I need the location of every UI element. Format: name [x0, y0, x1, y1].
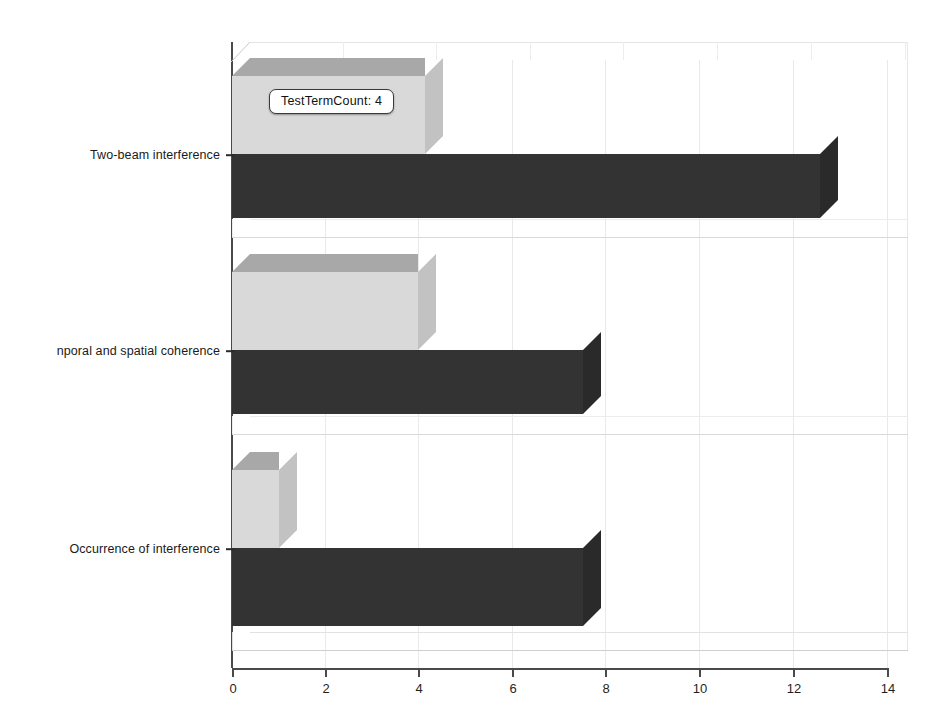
plot-floor-back — [250, 632, 908, 633]
x-tick-0 — [232, 668, 234, 677]
gridline-x-8 — [605, 60, 606, 668]
category-tick-2 — [226, 350, 235, 352]
bar-side-face — [820, 136, 838, 218]
x-tick-label-0: 0 — [229, 681, 236, 696]
bar-top-face — [232, 58, 425, 76]
x-tick-12 — [793, 668, 795, 677]
bar-side-face — [583, 530, 601, 626]
gridline-top-x-12 — [811, 42, 812, 60]
gridline-top-x-6 — [530, 42, 531, 60]
bar-front-face — [232, 350, 583, 414]
bar-series-dark-cat-2[interactable] — [232, 350, 583, 414]
gridline-x-14 — [887, 60, 888, 668]
x-tick-14 — [887, 668, 889, 677]
category-separator-1-back — [250, 219, 908, 220]
plot-top-edge — [249, 42, 908, 43]
category-tick-1 — [226, 154, 235, 156]
category-separator-2-back — [250, 416, 908, 417]
x-tick-label-2: 2 — [322, 681, 329, 696]
x-tick-2 — [325, 668, 327, 677]
category-separator-2-riser — [232, 416, 233, 434]
bar-chart: Two-beam interference nporal and spatial… — [0, 0, 944, 722]
x-tick-8 — [605, 668, 607, 677]
gridline-top-x-8 — [623, 42, 624, 60]
gridline-top-x-2 — [343, 42, 344, 60]
category-label-3: Occurrence of interference — [0, 542, 220, 556]
bar-side-face — [279, 452, 297, 548]
x-tick-4 — [418, 668, 420, 677]
bar-top-face — [232, 452, 279, 470]
gridline-top-x-10 — [717, 42, 718, 60]
x-tick-label-12: 12 — [787, 681, 801, 696]
plot-floor-front — [232, 650, 908, 651]
plot-floor-riser — [232, 632, 233, 650]
bar-front-face — [232, 76, 425, 154]
bar-series-light-cat-1[interactable] — [232, 76, 425, 154]
bar-top-face — [232, 254, 418, 272]
x-axis-line — [232, 668, 888, 670]
bar-front-face — [232, 470, 279, 548]
bar-series-light-cat-2[interactable] — [232, 272, 418, 350]
x-tick-10 — [699, 668, 701, 677]
bar-front-face — [232, 154, 820, 218]
gridline-top-x-4 — [436, 42, 437, 60]
category-tick-3 — [226, 548, 235, 550]
gridline-x-10 — [699, 60, 700, 668]
bar-side-face — [425, 58, 443, 154]
category-separator-1-riser — [232, 219, 233, 237]
x-tick-6 — [512, 668, 514, 677]
x-tick-label-10: 10 — [693, 681, 707, 696]
gridline-x-12 — [793, 60, 794, 668]
bar-series-light-cat-3[interactable] — [232, 470, 279, 548]
bar-series-dark-cat-3[interactable] — [232, 548, 583, 626]
x-tick-label-6: 6 — [509, 681, 516, 696]
bar-side-face — [583, 332, 601, 414]
bar-side-face — [418, 254, 436, 350]
plot-depth-corner — [231, 42, 251, 62]
gridline-top-x-14 — [905, 42, 906, 60]
bar-front-face — [232, 548, 583, 626]
bar-series-dark-cat-1[interactable] — [232, 154, 820, 218]
category-label-2: nporal and spatial coherence — [0, 344, 220, 358]
category-separator-1 — [232, 237, 908, 238]
data-tooltip: TestTermCount: 4 — [269, 89, 394, 114]
x-tick-label-14: 14 — [881, 681, 895, 696]
category-separator-2 — [232, 434, 908, 435]
plot-right-edge — [907, 42, 908, 650]
x-tick-label-8: 8 — [602, 681, 609, 696]
x-tick-label-4: 4 — [415, 681, 422, 696]
bar-front-face — [232, 272, 418, 350]
category-label-1: Two-beam interference — [0, 148, 220, 162]
